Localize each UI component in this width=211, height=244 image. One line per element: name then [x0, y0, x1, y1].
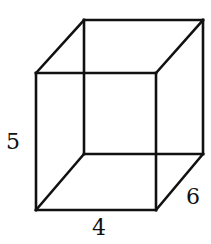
- prism-diagram: 5 4 6: [0, 0, 211, 244]
- prism-edges: [36, 20, 203, 210]
- height-label: 5: [6, 129, 20, 154]
- prism-svg: 5 4 6: [0, 0, 211, 244]
- depth-label: 6: [186, 184, 200, 209]
- bottom-left-depth-edge: [36, 154, 84, 210]
- top-right-depth-edge: [156, 20, 203, 73]
- width-label: 4: [92, 215, 106, 240]
- top-left-depth-edge: [36, 20, 84, 73]
